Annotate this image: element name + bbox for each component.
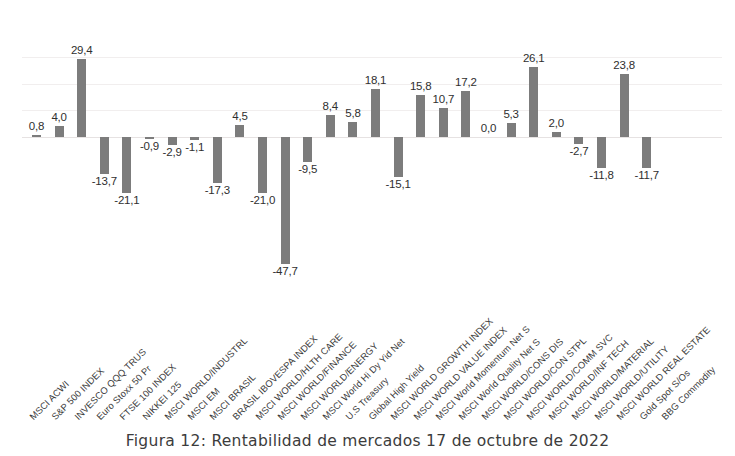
bar	[55, 126, 64, 137]
bar	[235, 125, 244, 137]
bar-value-label: -21,1	[104, 195, 150, 207]
bar	[371, 89, 380, 137]
plot-area: 0,84,029,4-13,7-21,1-0,9-2,9-1,1-17,34,5…	[22, 8, 722, 293]
bar-value-label: -1,1	[172, 142, 218, 154]
bar-value-label: -2,7	[556, 146, 602, 158]
bar-value-label: 4,0	[36, 112, 82, 124]
bar-value-label: -21,0	[240, 195, 286, 207]
bar	[394, 137, 403, 177]
bar-value-label: 5,3	[488, 109, 534, 121]
bar	[281, 137, 290, 264]
bar	[258, 137, 267, 193]
bar-value-label: 4,5	[217, 111, 263, 123]
bar-value-label: 2,0	[533, 118, 579, 130]
bar-value-label: 26,1	[511, 53, 557, 65]
bar	[213, 137, 222, 183]
bar	[507, 123, 516, 137]
bar-value-label: 17,2	[443, 77, 489, 89]
bar-value-label: 5,8	[330, 108, 376, 120]
bar	[620, 74, 629, 137]
bar	[100, 137, 109, 174]
bar	[552, 132, 561, 137]
bar	[574, 137, 583, 144]
bar	[145, 137, 154, 139]
bar-value-label: -47,7	[262, 266, 308, 278]
bar-value-label: -15,1	[375, 179, 421, 191]
category-label: MSCI WORLD REAL ESTATE	[615, 325, 712, 422]
bar-value-label: 29,4	[59, 45, 105, 57]
bar-value-label: -13,7	[81, 176, 127, 188]
figure-container: 0,84,029,4-13,7-21,1-0,9-2,9-1,1-17,34,5…	[0, 0, 735, 456]
bar	[190, 137, 199, 140]
gridline	[22, 57, 722, 58]
bar	[439, 108, 448, 137]
bar-value-label: -9,5	[285, 164, 331, 176]
bar-value-label: 10,7	[420, 94, 466, 106]
bar-value-label: 23,8	[601, 60, 647, 72]
bar-value-label: 15,8	[398, 81, 444, 93]
bar	[642, 137, 651, 168]
bar	[303, 137, 312, 162]
bar-value-label: -11,8	[579, 170, 625, 182]
bar-value-label: 0,0	[466, 123, 512, 135]
bar	[597, 137, 606, 168]
category-axis: MSCI ACWIS&P 500 INDEXINVESCO QQQ TRUSEu…	[0, 292, 735, 422]
figure-caption: Figura 12: Rentabilidad de mercados 17 d…	[0, 432, 735, 450]
bar	[348, 122, 357, 137]
bar-value-label: 18,1	[353, 75, 399, 87]
bar	[32, 135, 41, 137]
bar-value-label: -11,7	[624, 170, 670, 182]
bar-value-label: -17,3	[194, 185, 240, 197]
bar	[77, 59, 86, 137]
